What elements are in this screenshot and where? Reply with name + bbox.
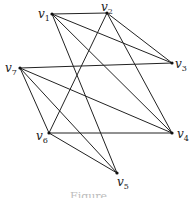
graph-diagram: v1v2v3v4v5v6v7 Figure — [0, 0, 192, 198]
node-v6 — [47, 131, 50, 134]
node-label-v3: v3 — [175, 57, 187, 73]
node-v7 — [18, 66, 21, 69]
edge-v1-v2 — [52, 13, 107, 14]
edge-v6-v5 — [49, 133, 117, 173]
node-label-v7: v7 — [5, 61, 17, 77]
node-label-v2: v2 — [101, 0, 113, 16]
edge-v7-v4 — [20, 68, 172, 133]
node-label-v1: v1 — [38, 7, 50, 23]
edge-v7-v3 — [20, 63, 172, 68]
node-label-v6: v6 — [36, 129, 48, 145]
node-label-v4: v4 — [177, 127, 189, 143]
edge-v2-v4 — [107, 13, 172, 133]
edge-v1-v4 — [52, 14, 172, 133]
graph-edges — [20, 13, 172, 173]
node-v3 — [170, 61, 173, 64]
edge-v7-v5 — [20, 68, 117, 173]
node-label-v5: v5 — [117, 175, 129, 191]
edge-v1-v5 — [52, 14, 117, 173]
edge-v2-v3 — [107, 13, 172, 63]
edge-v7-v6 — [20, 68, 49, 133]
edge-v2-v6 — [49, 13, 107, 133]
figure-caption: Figure — [70, 190, 107, 198]
node-v1 — [50, 12, 53, 15]
node-v4 — [170, 131, 173, 134]
